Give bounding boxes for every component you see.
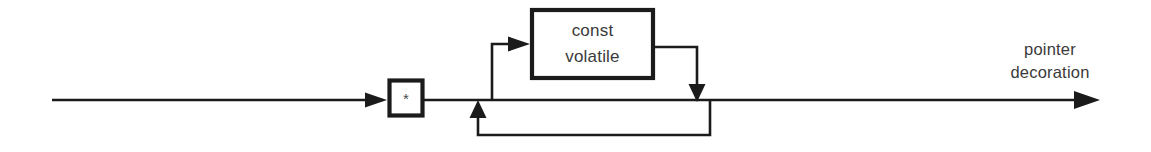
exit-arrowhead-icon	[1074, 91, 1100, 109]
main-track-entry	[52, 93, 387, 108]
railroad-diagram: * const volatile pointe	[0, 0, 1151, 152]
caption-line-1: pointer	[1024, 40, 1076, 58]
qualifier-entry-path	[492, 44, 522, 100]
diagram-caption: pointer decoration	[1010, 40, 1089, 81]
asterisk-terminal[interactable]: *	[390, 81, 423, 116]
qualifier-box[interactable]: const volatile	[532, 10, 653, 78]
caption-line-2: decoration	[1010, 63, 1089, 81]
repeat-loop-arrowhead-icon	[470, 100, 487, 118]
entry-arrowhead-icon	[365, 93, 387, 108]
repeat-loop-path	[478, 100, 710, 135]
qualifier-option-volatile: volatile	[565, 47, 620, 66]
repeat-loop	[470, 100, 711, 135]
qualifier-exit-path	[653, 47, 697, 88]
railroad-diagram-canvas: * const volatile pointe	[0, 0, 1151, 152]
qualifier-entry-arrowhead-icon	[508, 37, 530, 52]
asterisk-box-label: *	[403, 90, 409, 107]
qualifier-exit-branch	[653, 47, 706, 102]
qualifier-option-const: const	[572, 21, 614, 40]
qualifier-entry-branch	[492, 37, 530, 101]
main-track-body	[423, 91, 1100, 109]
